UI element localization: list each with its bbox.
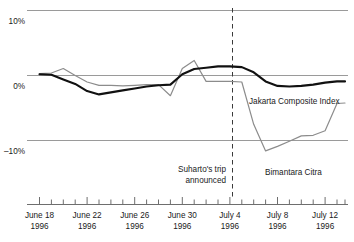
y-tick-label-0: 0%	[13, 82, 25, 91]
series-label-jakarta-composite-index: Jakarta Composite Index	[249, 97, 340, 106]
x-tick-label-july-12-line2: 1996	[316, 222, 335, 231]
chart-container: 10% 0% –10%	[0, 0, 354, 242]
x-tick-label-july-12-line1: July 12	[312, 211, 338, 220]
x-tick-label-june-18-line1: June 18	[25, 211, 55, 220]
x-tick-label-june-22-line1: June 22	[73, 211, 103, 220]
x-axis-ticks	[40, 197, 346, 205]
x-tick-label-june-26-line2: 1996	[126, 222, 145, 231]
x-tick-label-june-30-line2: 1996	[173, 222, 192, 231]
x-tick-label-june-18-line2: 1996	[30, 222, 49, 231]
x-tick-label-july-8-line1: July 8	[267, 211, 289, 220]
event-annotation-line2: announced	[185, 176, 226, 185]
x-axis-tick-labels: June 18 1996 June 22 1996 June 26 1996 J…	[25, 211, 339, 231]
x-tick-label-july-4-line2: 1996	[221, 222, 240, 231]
y-tick-label-10: 10%	[9, 17, 25, 26]
x-tick-label-june-30-line1: June 30	[168, 211, 198, 220]
event-annotation-line1: Suharto's trip	[178, 165, 226, 174]
line-chart: 10% 0% –10%	[0, 0, 354, 242]
event-annotation: Suharto's trip announced	[178, 165, 226, 185]
y-tick-label-minus-10: –10%	[4, 147, 25, 156]
series-label-bimantara-citra: Bimantara Citra	[265, 168, 322, 177]
x-tick-label-june-22-line2: 1996	[78, 222, 97, 231]
y-axis-tick-labels: 10% 0% –10%	[4, 17, 25, 156]
x-tick-label-july-4-line1: July 4	[219, 211, 241, 220]
x-tick-label-june-26-line1: June 26	[120, 211, 150, 220]
x-tick-label-july-8-line2: 1996	[268, 222, 287, 231]
